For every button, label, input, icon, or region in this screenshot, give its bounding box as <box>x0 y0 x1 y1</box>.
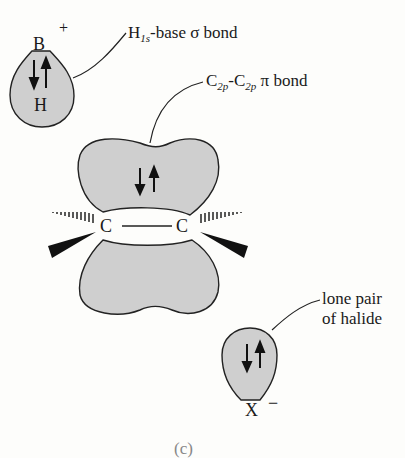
pi-leader-line <box>150 82 203 143</box>
lone-pair-label-line2: of halide <box>322 310 382 327</box>
hashed-wedge-right <box>201 212 241 223</box>
sigma-leader-line <box>73 33 126 78</box>
halide-label: X <box>245 401 258 419</box>
bh-sigma-orbital <box>10 51 74 127</box>
carbon-right-label: C <box>176 217 188 235</box>
lone-pair-label-line1: lone pair <box>322 290 382 307</box>
pi-orbital-bottom-lobe <box>80 240 219 314</box>
boron-charge: + <box>59 20 68 36</box>
hashed-wedge-left <box>53 212 93 223</box>
hydrogen-label: H <box>34 96 47 114</box>
pi-orbital-top-lobe <box>78 139 219 215</box>
carbon-left-label: C <box>100 217 112 235</box>
solid-wedge-left <box>48 232 96 258</box>
halide-charge: − <box>268 394 278 412</box>
pi-bond-label: C2p-C2p π bond <box>206 72 307 92</box>
boron-label: B <box>33 35 45 53</box>
figure-caption: (c) <box>174 440 193 457</box>
lone-pair-leader-line <box>272 300 320 330</box>
sigma-bond-label: H1s-base σ bond <box>128 24 238 44</box>
